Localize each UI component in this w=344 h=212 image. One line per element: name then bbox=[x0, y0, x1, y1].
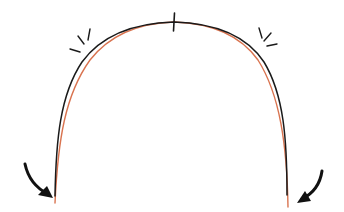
arch-diagram bbox=[0, 0, 344, 212]
arch-diagram-svg bbox=[0, 0, 344, 212]
right-emphasis-marks-icon bbox=[259, 28, 277, 46]
left-curved-arrow-icon bbox=[25, 164, 53, 198]
outer-arch-curve bbox=[55, 22, 287, 196]
right-curved-arrow-icon bbox=[297, 171, 322, 203]
left-emphasis-marks-icon bbox=[70, 29, 90, 52]
midline-tick bbox=[174, 13, 175, 31]
